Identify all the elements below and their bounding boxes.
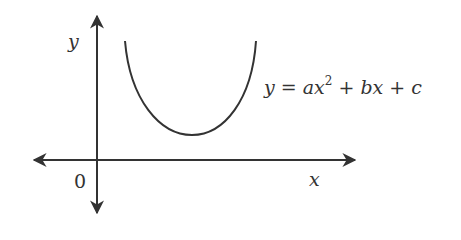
equation-label: y = ax2 + bx + c [264,78,422,97]
parabola-curve [125,41,256,135]
equation-exponent: 2 [325,74,333,88]
x-axis-label: x [309,170,320,189]
y-axis-label: y [68,32,79,51]
origin-label: 0 [74,172,86,191]
equation-lhs: y = ax [264,76,325,98]
equation-rhs: + bx + c [332,76,422,98]
